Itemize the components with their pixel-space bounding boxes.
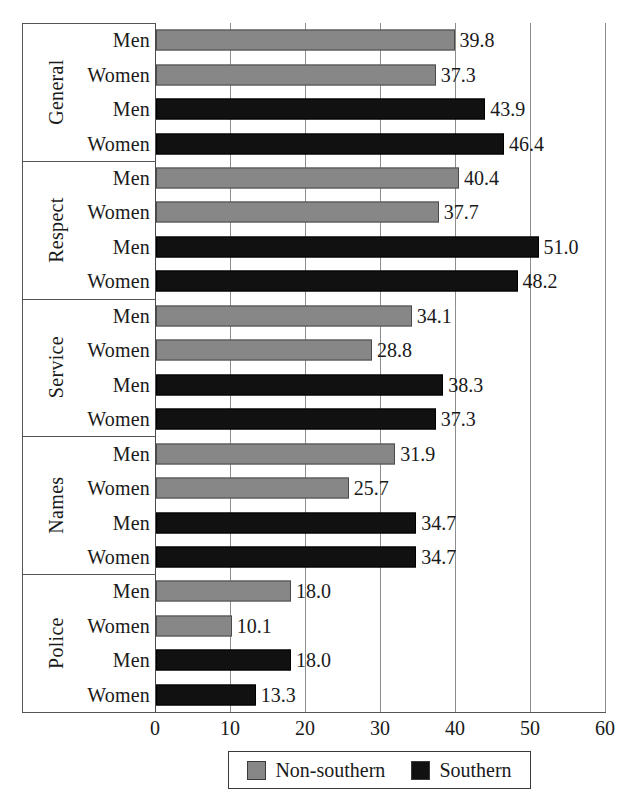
bar-nonsouthern [156, 478, 349, 499]
bar-nonsouthern [156, 340, 372, 361]
bar-southern [156, 684, 256, 705]
legend-swatch-icon [411, 761, 430, 780]
legend-label: Southern [439, 760, 511, 780]
bar-value-label: 37.3 [435, 409, 476, 429]
x-tick-label-60: 60 [575, 718, 635, 738]
x-tick-label-10: 10 [200, 718, 260, 738]
bar-row: Men18.0 [0, 643, 636, 677]
bar-row-label-general-3: Women [87, 134, 150, 154]
bar-row: Men39.8 [0, 23, 636, 57]
bar-value-label: 25.7 [348, 478, 389, 498]
bar-row-label-respect-3: Women [87, 271, 150, 291]
bar-row-label-respect-0: Men [113, 168, 150, 188]
bar-row: Men31.9 [0, 436, 636, 470]
bar-value-label: 48.2 [517, 271, 558, 291]
bar-value-label: 13.3 [255, 685, 296, 705]
bar-row: Men18.0 [0, 574, 636, 608]
bar-row: Men40.4 [0, 161, 636, 195]
legend-entry-southern: Southern [411, 760, 511, 780]
bar-southern [156, 650, 291, 671]
bar-row: Women13.3 [0, 678, 636, 712]
bar-row-label-service-1: Women [87, 340, 150, 360]
bar-nonsouthern [156, 202, 439, 223]
bar-nonsouthern [156, 305, 412, 326]
bar-value-label: 31.9 [394, 444, 435, 464]
bar-row: Men38.3 [0, 368, 636, 402]
bar-value-label: 39.8 [454, 30, 495, 50]
bar-southern [156, 374, 443, 395]
x-tick-label-20: 20 [275, 718, 335, 738]
bar-nonsouthern [156, 30, 455, 51]
bar-row: Women46.4 [0, 126, 636, 160]
bar-nonsouthern [156, 64, 436, 85]
bar-southern [156, 236, 539, 257]
bar-row: Men51.0 [0, 230, 636, 264]
bar-row: Women10.1 [0, 609, 636, 643]
x-tick-label-50: 50 [500, 718, 560, 738]
bar-value-label: 51.0 [538, 237, 579, 257]
bar-row-label-general-0: Men [113, 30, 150, 50]
bar-value-label: 28.8 [371, 340, 412, 360]
bar-row-label-police-1: Women [87, 616, 150, 636]
bar-row: Women34.7 [0, 540, 636, 574]
bar-southern [156, 512, 416, 533]
bar-row-label-service-2: Men [113, 375, 150, 395]
bar-row-label-service-3: Women [87, 409, 150, 429]
bar-row-label-general-2: Men [113, 99, 150, 119]
x-tick-label-0: 0 [125, 718, 185, 738]
bar-value-label: 10.1 [231, 616, 272, 636]
legend-entry-non-southern: Non-southern [247, 760, 385, 780]
bar-nonsouthern [156, 615, 232, 636]
bar-southern [156, 546, 416, 567]
bar-row: Men43.9 [0, 92, 636, 126]
bar-row: Women48.2 [0, 264, 636, 298]
bar-southern [156, 409, 436, 430]
bar-nonsouthern [156, 443, 395, 464]
bar-row: Women25.7 [0, 471, 636, 505]
bar-row: Women37.3 [0, 57, 636, 91]
bar-southern [156, 99, 485, 120]
bar-row-label-police-3: Women [87, 685, 150, 705]
bar-row-label-respect-1: Women [87, 202, 150, 222]
bar-value-label: 37.7 [438, 202, 479, 222]
grouped-bar-chart: GeneralRespectServiceNamesPolice Men39.8… [0, 0, 636, 806]
bar-value-label: 46.4 [503, 134, 544, 154]
bar-value-label: 34.7 [415, 513, 456, 533]
bar-southern [156, 133, 504, 154]
bar-row-label-general-1: Women [87, 65, 150, 85]
bar-value-label: 18.0 [290, 650, 331, 670]
chart-legend: Non-southernSouthern [228, 751, 531, 789]
group-separator-bottom [22, 712, 156, 713]
bar-value-label: 18.0 [290, 581, 331, 601]
bar-row-label-names-2: Men [113, 513, 150, 533]
x-tick-label-40: 40 [425, 718, 485, 738]
bar-row-label-service-0: Men [113, 306, 150, 326]
bar-nonsouthern [156, 581, 291, 602]
bar-row: Women37.3 [0, 402, 636, 436]
bar-row-label-respect-2: Men [113, 237, 150, 257]
bar-row-label-police-2: Men [113, 650, 150, 670]
bar-row-label-police-0: Men [113, 581, 150, 601]
bar-value-label: 38.3 [442, 375, 483, 395]
x-tick-label-30: 30 [350, 718, 410, 738]
bar-value-label: 37.3 [435, 65, 476, 85]
bar-row: Men34.7 [0, 505, 636, 539]
bar-row-label-names-0: Men [113, 444, 150, 464]
bar-value-label: 43.9 [484, 99, 525, 119]
bar-row: Women37.7 [0, 195, 636, 229]
bar-row-label-names-1: Women [87, 478, 150, 498]
bar-value-label: 34.1 [411, 306, 452, 326]
bar-value-label: 34.7 [415, 547, 456, 567]
legend-label: Non-southern [275, 760, 385, 780]
bar-row: Women28.8 [0, 333, 636, 367]
bar-nonsouthern [156, 168, 459, 189]
bar-southern [156, 271, 518, 292]
bar-row: Men34.1 [0, 299, 636, 333]
legend-swatch-icon [247, 761, 266, 780]
bar-row-label-names-3: Women [87, 547, 150, 567]
bar-value-label: 40.4 [458, 168, 499, 188]
